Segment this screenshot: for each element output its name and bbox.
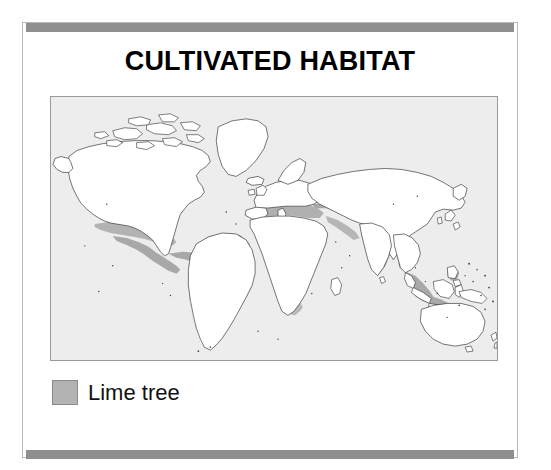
legend-label-lime-tree: Lime tree [88,380,180,405]
world-map-svg: .land { fill:#ffffff; stroke:#3b3b3b; st… [51,97,497,360]
card-top-accent-bar [26,23,514,32]
world-map: .land { fill:#ffffff; stroke:#3b3b3b; st… [50,96,498,361]
map-legend: Lime tree [52,380,180,405]
screenshot-root: CULTIVATED HABITAT .land { fill:#ffffff;… [0,0,551,470]
card-bottom-accent-bar [26,450,514,459]
page-title: CULTIVATED HABITAT [22,46,518,76]
legend-swatch-lime-tree [52,380,78,405]
